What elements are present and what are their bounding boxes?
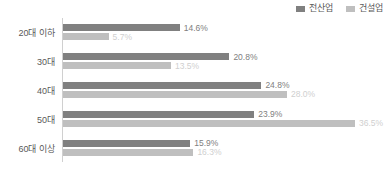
legend-item-1[interactable]: 건설업: [346, 4, 383, 13]
chart-legend: 전산업 건설업: [296, 2, 383, 15]
category-label-4: 60대 이상: [18, 141, 55, 154]
category-label-2: 40대: [37, 83, 55, 96]
plot-area: 20대 이하 14.6% 5.7% 30대 20.8% 13.5%: [62, 18, 382, 162]
bar-value-construction-4: 16.3%: [197, 148, 221, 157]
category-label-0: 20대 이하: [18, 26, 55, 39]
bar-total-0: [63, 24, 180, 31]
bar-row-total-4[interactable]: 15.9%: [63, 140, 190, 147]
category-group-0: 20대 이하 14.6% 5.7%: [62, 18, 382, 47]
bar-construction-2: [63, 91, 287, 98]
bar-row-construction-1[interactable]: 13.5%: [63, 62, 171, 69]
bar-value-construction-3: 36.5%: [359, 119, 383, 128]
bar-construction-0: [63, 33, 109, 40]
category-group-4: 60대 이상 15.9% 16.3%: [62, 133, 382, 162]
bar-value-construction-0: 5.7%: [113, 32, 132, 41]
legend-swatch-total: [296, 6, 305, 12]
bar-value-total-0: 14.6%: [184, 23, 208, 32]
bar-construction-1: [63, 62, 171, 69]
bar-value-total-3: 23.9%: [258, 110, 282, 119]
legend-swatch-construction: [346, 6, 355, 12]
bar-chart: 전산업 건설업 20대 이하 14.6% 5.7% 30대 20: [0, 0, 389, 178]
legend-item-0[interactable]: 전산업: [296, 4, 333, 13]
bar-total-3: [63, 111, 254, 118]
category-group-2: 40대 24.8% 28.0%: [62, 76, 382, 105]
bar-value-construction-1: 13.5%: [175, 61, 199, 70]
category-group-3: 50대 23.9% 36.5%: [62, 104, 382, 133]
bar-total-2: [63, 82, 261, 89]
bar-row-construction-2[interactable]: 28.0%: [63, 91, 287, 98]
bar-value-total-1: 20.8%: [233, 52, 257, 61]
bar-row-construction-4[interactable]: 16.3%: [63, 149, 193, 156]
bar-row-construction-0[interactable]: 5.7%: [63, 33, 109, 40]
bar-construction-4: [63, 149, 193, 156]
legend-label-construction: 건설업: [359, 4, 383, 13]
bar-row-total-1[interactable]: 20.8%: [63, 53, 229, 60]
bar-value-construction-2: 28.0%: [291, 90, 315, 99]
category-label-3: 50대: [37, 112, 55, 125]
bar-value-total-2: 24.8%: [265, 81, 289, 90]
bar-construction-3: [63, 120, 355, 127]
bar-total-4: [63, 140, 190, 147]
bar-row-construction-3[interactable]: 36.5%: [63, 120, 355, 127]
category-group-1: 30대 20.8% 13.5%: [62, 47, 382, 76]
bar-row-total-0[interactable]: 14.6%: [63, 24, 180, 31]
category-label-1: 30대: [37, 55, 55, 68]
bar-row-total-3[interactable]: 23.9%: [63, 111, 254, 118]
bar-row-total-2[interactable]: 24.8%: [63, 82, 261, 89]
legend-label-total: 전산업: [309, 4, 333, 13]
bar-total-1: [63, 53, 229, 60]
